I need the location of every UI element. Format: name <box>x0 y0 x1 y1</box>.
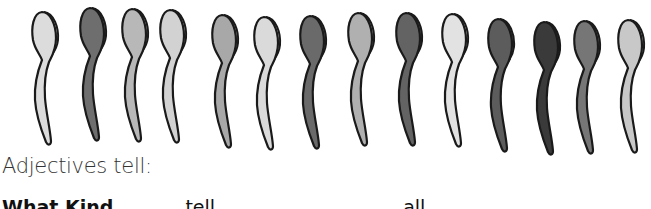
spoon-icon <box>438 10 474 150</box>
spoon-icon <box>530 18 566 158</box>
spoon-icon <box>392 9 428 149</box>
spoon-icon <box>484 15 520 155</box>
heading-adjectives-tell: Adjectives tell: <box>2 154 152 178</box>
spoon-icon <box>570 17 606 157</box>
spoon-icon <box>156 6 192 146</box>
clipped-text-line: What Kind tell all <box>2 196 431 209</box>
spoon-icon <box>208 11 244 151</box>
spoon-icon <box>614 16 650 156</box>
spoon-icon <box>118 5 154 145</box>
clipped-word-2: all <box>403 196 425 209</box>
spoon-icon <box>296 12 332 152</box>
what-kind-label: What Kind <box>2 196 113 209</box>
clipped-word-1: tell <box>185 196 215 209</box>
spoon-icon <box>344 9 380 149</box>
spoons-illustration <box>0 0 651 150</box>
spoon-icon <box>28 8 64 148</box>
spoon-icon <box>250 13 286 153</box>
spoon-icon <box>76 4 112 144</box>
